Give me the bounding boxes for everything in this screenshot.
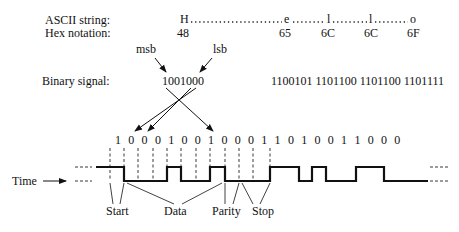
callout-lines: [110, 183, 270, 204]
msb-lsb-arrows: [155, 58, 212, 72]
bit-boundaries: [110, 148, 270, 180]
signal-waveform: [96, 167, 428, 181]
crossing-arrows: [135, 88, 213, 131]
diagram-graphics: [0, 0, 459, 232]
idle-dashes: [75, 167, 448, 181]
